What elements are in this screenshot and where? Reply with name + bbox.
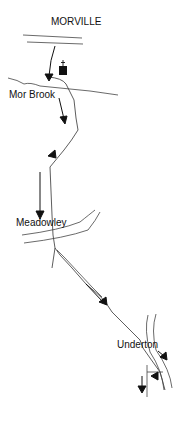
arrow-icon: [138, 386, 146, 393]
map-drawing: [0, 0, 185, 421]
route-map: MORVILLE Mor Brook Meadowley Underton: [0, 0, 185, 421]
road-morville: [23, 35, 83, 44]
route-path-parallel: [57, 250, 102, 297]
arrow-icon: [151, 372, 158, 380]
place-label-mor-brook: Mor Brook: [9, 90, 55, 100]
arrow-icon: [48, 150, 56, 158]
arrow-icon: [99, 297, 107, 305]
place-label-morville: MORVILLE: [51, 17, 101, 27]
junction-underton: [147, 365, 163, 397]
place-label-underton: Underton: [117, 340, 158, 350]
place-label-meadowley: Meadowley: [16, 218, 67, 228]
church-icon: [59, 60, 67, 75]
arrow-icon: [60, 116, 67, 124]
